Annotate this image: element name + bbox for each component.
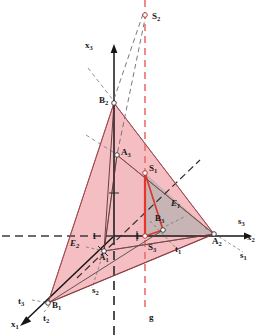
label-s1: s1 [240,251,247,260]
label-s2: s2 [92,286,99,295]
unit-mark-right-label: 1 [135,232,140,241]
trace-line-t2 [44,305,50,312]
label-A2: A2 [212,237,222,246]
label-B2: B2 [99,96,108,105]
label-x1: x1 [11,320,19,329]
label-t1: t1 [175,245,181,254]
label-S1: S1 [149,164,157,173]
point-marker-B1 [46,301,51,306]
plane-e2-fill [48,103,214,303]
label-B3: B3 [155,214,164,223]
label-g: g [149,313,154,322]
label-E1: E1 [171,199,180,208]
figure-canvas: S2 x3 B2 A3 S1 E1 B3 s3 x2 A2 s1 E2 1 1 … [0,0,259,336]
label-B1: B1 [52,301,61,310]
label-x3: x3 [85,41,93,50]
geometry-svg [0,0,259,336]
projection-ray-s2-left [113,14,143,102]
label-s3: s3 [238,217,245,226]
label-A1: A1 [99,253,109,262]
label-x2: x2 [247,233,255,242]
label-E2: E2 [70,239,79,248]
point-marker-B2 [112,101,117,106]
unit-mark-left-label: 1 [92,232,97,241]
point-marker-B3 [161,228,166,233]
label-S2: S2 [152,12,160,21]
label-t3: t3 [18,297,24,306]
label-S3: S3 [148,243,156,252]
label-t2: t2 [43,314,49,323]
point-marker-S3 [143,234,148,239]
point-marker-A3 [115,153,120,158]
label-A3: A3 [121,148,131,157]
axis-x3-arrow [111,44,118,53]
point-marker-S1 [143,171,148,176]
point-marker-S2 [143,13,148,18]
trace-line-t3 [32,300,44,302]
